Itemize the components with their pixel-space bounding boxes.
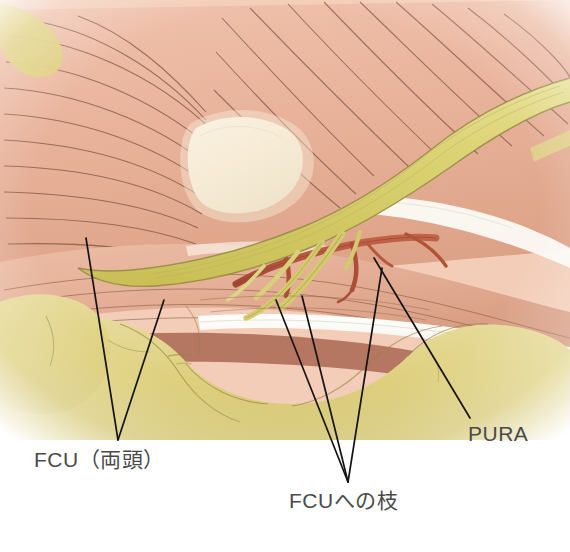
leader-line-fcu-heads-2: [118, 300, 164, 440]
leader-line-fcu-branch-3: [348, 268, 382, 482]
label-pura: PURA: [468, 422, 528, 446]
label-fcu-branch: FCUへの枝: [289, 484, 398, 514]
anatomical-figure: FCU（両頭） FCUへの枝 PURA: [0, 0, 570, 552]
label-fcu-heads: FCU（両頭）: [34, 443, 165, 473]
leader-line-fcu-branch-1: [276, 300, 348, 482]
leader-line-fcu-branch-2: [302, 296, 348, 482]
leader-line-fcu-heads-1: [86, 238, 118, 440]
leader-line-pura: [374, 258, 470, 418]
